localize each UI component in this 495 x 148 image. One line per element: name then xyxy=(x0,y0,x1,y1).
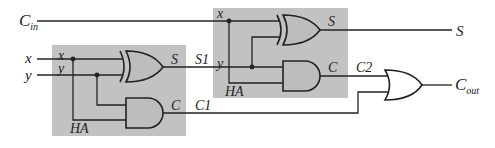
ha2-port-x: x xyxy=(216,6,224,21)
ha2-port-y: y xyxy=(215,56,224,71)
ha2-label: HA xyxy=(224,84,244,99)
and-gate-1 xyxy=(126,98,163,128)
junction-dot xyxy=(71,57,76,62)
s1-label: S1 xyxy=(195,52,209,67)
ha2-port-c: C xyxy=(328,60,338,75)
ha1-port-s: S xyxy=(171,52,178,67)
full-adder-diagram: Cin x y x y S C HA S1 C1 x y S C HA C2 S… xyxy=(0,0,495,148)
ha1-port-y: y xyxy=(56,61,65,76)
and-gate-2 xyxy=(283,61,320,91)
junction-dot xyxy=(250,65,255,70)
junction-dot xyxy=(227,19,232,24)
ha2-port-s: S xyxy=(328,14,335,29)
or-gate xyxy=(385,70,422,100)
ha1-port-c: C xyxy=(171,98,181,113)
c1-label: C1 xyxy=(195,98,211,113)
ha1-label: HA xyxy=(69,121,89,136)
cout-label: Cout xyxy=(455,75,479,96)
junction-dot xyxy=(95,73,100,78)
x-input-label: x xyxy=(24,50,32,66)
s-output-label: S xyxy=(456,23,464,39)
c2-label: C2 xyxy=(356,60,372,75)
y-input-label: y xyxy=(23,67,32,83)
cin-label: Cin xyxy=(19,11,38,32)
